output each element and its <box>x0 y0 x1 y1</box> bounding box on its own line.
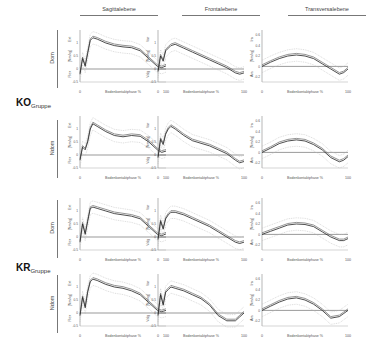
y-label-top: Ext <box>68 123 72 128</box>
y-tick-label: 0.6 <box>256 33 261 37</box>
y-label-top: Ext <box>68 37 72 42</box>
sd-upper-line <box>262 49 348 68</box>
y-label-unit: [Nm/kg] <box>146 294 150 306</box>
y-tick-label: 0 <box>154 67 156 71</box>
mean-line <box>262 224 348 241</box>
column-header-label: Sagittalebene <box>102 6 136 12</box>
y-tick-label: 1 <box>154 41 156 45</box>
y-tick-label: -0.5 <box>151 80 157 84</box>
chart-panel: 10.50-0.5Var[Nm/kg]Valg0100Bodenkontaktp… <box>140 110 250 182</box>
y-label-unit: [Nm/kg] <box>68 218 72 230</box>
y-label-bottom: Flex <box>68 239 72 246</box>
y-label-top: Ext <box>68 281 72 286</box>
x-tick-label: 0 <box>79 334 81 338</box>
y-tick-label: 0.5 <box>152 222 157 226</box>
row-label-ko-ndom: Ndom <box>49 138 55 158</box>
group-label-text: KR <box>16 262 30 273</box>
y-label-top: Ext <box>68 205 72 210</box>
y-label-bottom: Valg <box>146 315 150 322</box>
y-label-bottom: Ara <box>250 71 254 77</box>
x-tick-label: 100 <box>345 258 351 262</box>
sd-upper-line <box>262 218 348 235</box>
divider <box>80 15 158 16</box>
sd-upper-line <box>158 38 244 68</box>
x-tick-label: 0 <box>261 334 263 338</box>
sd-lower-line <box>158 219 244 250</box>
y-tick-label: 0 <box>154 153 156 157</box>
mean-line <box>158 287 244 321</box>
mean-line <box>262 298 348 318</box>
y-tick-label: 0.2 <box>256 298 261 302</box>
chart-panel: 10.50-0.5Var[Nm/kg]Valg0100Bodenkontaktp… <box>140 268 250 340</box>
chart-panel: 0.60.40.20-0.2Ira[Nm/kg]Ara0100Bodenkont… <box>244 268 354 340</box>
mean-line <box>262 140 348 162</box>
y-label-unit: [Nm/kg] <box>250 294 254 306</box>
y-tick-label: 0.5 <box>152 140 157 144</box>
x-axis-label: Bodenkontaktphase % <box>183 258 220 262</box>
group-label-sub: Gruppe <box>30 268 50 274</box>
y-label-bottom: Valg <box>146 157 150 164</box>
x-tick-label: 0 <box>79 90 81 94</box>
x-tick-label: 0 <box>79 176 81 180</box>
y-tick-label: 0 <box>258 151 260 155</box>
y-tick-label: -0.5 <box>73 80 79 84</box>
y-tick-label: 0.6 <box>256 201 261 205</box>
mean-line-secondary <box>262 138 348 160</box>
sd-lower-line <box>262 61 348 80</box>
chart-panel: 10.50-0.5Var[Nm/kg]Valg0100Bodenkontaktp… <box>140 24 250 96</box>
group-label-ko: KOGruppe <box>16 97 51 109</box>
y-tick-label: 0 <box>258 309 260 313</box>
y-tick-label: -0.5 <box>151 166 157 170</box>
sd-lower-line <box>158 51 244 81</box>
x-axis-label: Bodenkontaktphase % <box>287 258 324 262</box>
chart-panel: 0.60.40.20-0.2Ira[Nm/kg]Ara0100Bodenkont… <box>244 110 354 182</box>
y-tick-label: 0.5 <box>152 298 157 302</box>
y-label-top: Ira <box>250 205 254 209</box>
row-label-ko-dom: Dom <box>49 48 55 68</box>
y-label-unit: [Nm/kg] <box>68 294 72 306</box>
y-tick-label: 0.2 <box>256 140 261 144</box>
y-tick-label: 0 <box>76 235 78 239</box>
divider <box>182 15 260 16</box>
y-label-top: Var <box>146 280 150 286</box>
y-label-unit: [Nm/kg] <box>146 136 150 148</box>
y-label-unit: [Nm/kg] <box>250 50 254 62</box>
y-tick-label: 0.5 <box>74 222 79 226</box>
y-label-bottom: Flex <box>68 315 72 322</box>
y-tick-label: 0 <box>154 235 156 239</box>
mean-line <box>262 55 348 74</box>
y-label-top: Ira <box>250 37 254 41</box>
chart-panel: 10.50-0.5Var[Nm/kg]Valg0100Bodenkontaktp… <box>140 192 250 264</box>
sd-lower-line <box>262 146 348 168</box>
y-label-bottom: Flex <box>68 71 72 78</box>
y-tick-label: 0 <box>258 233 260 237</box>
mean-line-secondary <box>262 296 348 316</box>
y-label-top: Var <box>146 204 150 210</box>
y-tick-label: 1 <box>154 209 156 213</box>
divider <box>288 15 366 16</box>
y-tick-label: 0.5 <box>74 54 79 58</box>
y-tick-label: -0.5 <box>151 248 157 252</box>
x-axis-label: Bodenkontaktphase % <box>105 334 142 338</box>
mean-line-secondary <box>158 43 244 73</box>
y-tick-label: 1 <box>76 127 78 131</box>
x-tick-label: 100 <box>345 176 351 180</box>
y-tick-label: -0.5 <box>73 324 79 328</box>
row-divider <box>57 120 58 178</box>
group-label-kr: KRGruppe <box>16 262 50 274</box>
y-tick-label: 0.4 <box>256 130 261 134</box>
x-tick-label: 0 <box>261 176 263 180</box>
x-tick-label: 0 <box>157 176 159 180</box>
column-header-transversal: Transversalebene <box>288 6 366 16</box>
y-tick-label: 0 <box>76 67 78 71</box>
y-tick-label: -0.2 <box>255 75 261 79</box>
chart-panel: 0.60.40.20-0.2Ira[Nm/kg]Ara0100Bodenkont… <box>244 24 354 96</box>
y-tick-label: 0 <box>76 153 78 157</box>
y-label-top: Ira <box>250 281 254 285</box>
y-tick-label: -0.5 <box>73 248 79 252</box>
y-tick-label: 1 <box>76 209 78 213</box>
x-tick-label: 100 <box>345 334 351 338</box>
y-tick-label: 0.2 <box>256 222 261 226</box>
row-label-kr-dom: Dom <box>49 218 55 238</box>
y-tick-label: 1 <box>154 285 156 289</box>
